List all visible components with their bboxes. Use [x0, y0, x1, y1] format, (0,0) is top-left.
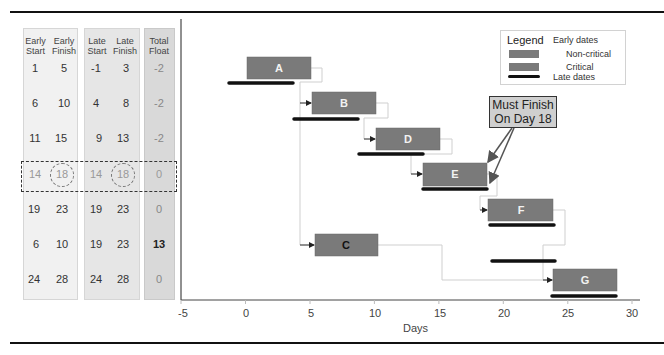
x-tick: 30	[626, 307, 638, 319]
legend-non-critical-swatch	[509, 50, 539, 58]
svg-text:F: F	[518, 204, 525, 216]
x-tick: 25	[562, 307, 574, 319]
must-finish-callout: Must Finish On Day 18	[489, 96, 557, 128]
legend-early-dates: Early dates	[553, 35, 598, 45]
legend-late-dates: Late dates	[553, 72, 595, 82]
callout-line1: Must Finish	[490, 98, 556, 112]
svg-text:E: E	[451, 168, 458, 180]
x-tick: 20	[498, 307, 510, 319]
svg-text:C: C	[342, 239, 350, 251]
svg-text:G: G	[581, 274, 590, 286]
svg-text:B: B	[340, 97, 348, 109]
x-tick: 15	[434, 307, 446, 319]
callout-line2: On Day 18	[490, 112, 556, 126]
legend-non-critical: Non-critical	[566, 49, 611, 59]
legend: Legend Early dates Non-critical Critical…	[500, 30, 626, 85]
legend-title: Legend	[507, 34, 544, 46]
legend-critical: Critical	[566, 62, 594, 72]
legend-late-swatch	[508, 75, 540, 78]
x-tick: -5	[178, 307, 188, 319]
legend-critical-swatch	[509, 63, 539, 71]
svg-text:A: A	[275, 62, 283, 74]
x-axis-label: Days	[403, 322, 428, 334]
x-tick: 0	[243, 307, 249, 319]
x-tick: 10	[369, 307, 381, 319]
x-tick: 5	[308, 307, 314, 319]
svg-text:D: D	[404, 133, 412, 145]
